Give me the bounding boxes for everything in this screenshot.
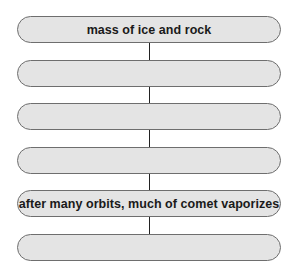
flow-step-3-blank [17, 103, 281, 130]
connector-line [149, 217, 150, 234]
connector-line [149, 43, 150, 60]
flow-step-5: after many orbits, much of comet vaporiz… [17, 190, 281, 217]
flow-step-6-blank [17, 234, 281, 261]
connector-line [149, 130, 150, 147]
connector-line [149, 174, 150, 190]
connector-line [149, 87, 150, 103]
flow-step-4-blank [17, 147, 281, 174]
flow-step-2-blank [17, 60, 281, 87]
flow-step-1: mass of ice and rock [17, 16, 281, 43]
